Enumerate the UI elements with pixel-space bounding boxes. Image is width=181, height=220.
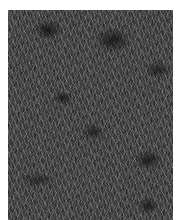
grass-photo bbox=[8, 10, 173, 220]
